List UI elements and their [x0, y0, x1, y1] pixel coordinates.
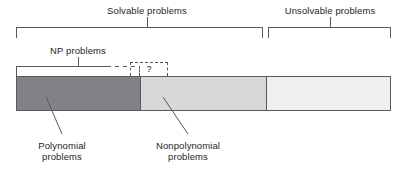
polynomial-problems-callout: Polynomial problems [17, 140, 107, 162]
polynomial-callout-line1: Polynomial [38, 140, 85, 151]
nonpolynomial-callout-line2: problems [168, 151, 208, 162]
nonpolynomial-callout-line1: Nonpolynomial [156, 140, 220, 151]
nonpolynomial-problems-callout: Nonpolynomial problems [143, 140, 233, 162]
problem-classification-diagram: Solvable problems Unsolvable problems NP… [0, 0, 408, 177]
polynomial-callout-line2: problems [42, 151, 82, 162]
